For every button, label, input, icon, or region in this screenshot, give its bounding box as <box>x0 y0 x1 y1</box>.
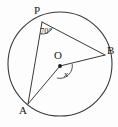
circle-outline <box>8 12 112 116</box>
point-label-p: P <box>34 5 40 16</box>
angle-label-70-degrees: 70° <box>40 27 52 36</box>
center-label-o: O <box>54 50 62 61</box>
point-label-a: A <box>19 105 27 116</box>
segment-ob <box>60 55 105 66</box>
angle-label-x: x <box>64 70 68 79</box>
geometry-figure: P B A O 70° x <box>0 0 118 127</box>
segment-oa <box>28 66 60 104</box>
center-point-dot <box>58 64 62 68</box>
geometry-canvas <box>0 0 118 127</box>
point-label-b: B <box>107 45 114 56</box>
